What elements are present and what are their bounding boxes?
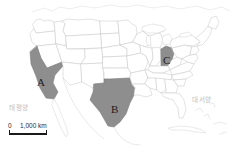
- state-alabama: [156, 78, 166, 93]
- coastline-cuba: [168, 126, 206, 133]
- state-oklahoma: [103, 68, 131, 79]
- state-washington: [33, 19, 55, 33]
- state-label-b: B: [111, 104, 118, 115]
- coastline-atlantic-islands: [214, 122, 226, 134]
- coastline-bahamas: [196, 103, 215, 119]
- ocean-label-pacific: 태평양: [9, 102, 29, 112]
- state-florida: [161, 93, 186, 118]
- us-states-highlight-map: A B C 태평양 대서양 0 1,000 km: [0, 0, 232, 151]
- ocean-label-atlantic: 대서양: [192, 94, 212, 104]
- state-label-c: C: [163, 55, 170, 66]
- scale-bar-rule: [9, 133, 47, 135]
- neighbor-canada-outline: [32, 5, 230, 12]
- scale-bar: 0 1,000 km: [8, 121, 66, 139]
- coastline-mexico-gulf: [114, 127, 140, 145]
- state-north-dakota: [100, 21, 119, 34]
- scale-bar-zero-label: 0: [8, 121, 12, 130]
- scale-bar-distance-label: 1,000 km: [20, 121, 47, 130]
- state-maine: [208, 16, 219, 29]
- state-montana: [62, 19, 101, 36]
- state-wyoming: [66, 34, 102, 49]
- state-arizona: [62, 62, 82, 85]
- state-kansas: [103, 56, 128, 68]
- state-label-a: A: [37, 77, 45, 88]
